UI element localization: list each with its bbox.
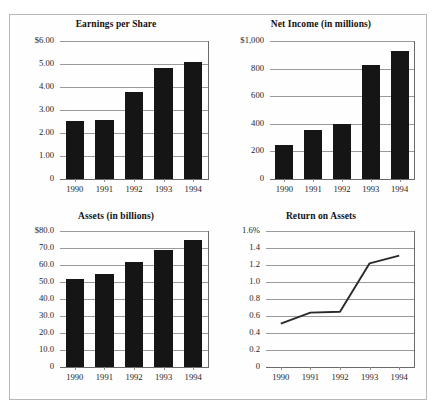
chart-title-net-income: Net Income (in millions) — [218, 19, 424, 29]
y-axis-tick-label: $6.00 — [16, 35, 54, 45]
bar-1992 — [125, 92, 143, 179]
x-axis-tick-label: 1991 — [299, 184, 328, 194]
x-axis-tick-mark — [164, 367, 165, 370]
chart-panel-net-income: Net Income (in millions)0200400600800$1,… — [218, 19, 424, 211]
x-axis-tick-mark — [399, 367, 400, 370]
y-axis-tick-label: 0 — [220, 173, 264, 183]
x-axis-tick-label: 1990 — [266, 372, 296, 382]
x-axis-tick-label: 1992 — [119, 372, 149, 382]
right-spine — [414, 231, 415, 368]
x-axis-tick-label: 1991 — [296, 372, 326, 382]
y-axis-tick-label: 600 — [220, 90, 264, 100]
y-axis-tick-label: 1.2 — [220, 259, 260, 269]
x-axis-tick-mark — [340, 367, 341, 370]
x-axis-tick-mark — [134, 179, 135, 182]
y-axis-tick-label: 0 — [220, 361, 260, 371]
y-axis-tick-label: 2.00 — [16, 127, 54, 137]
chart-title-earnings-per-share: Earnings per Share — [14, 19, 218, 29]
x-axis-tick-mark — [370, 367, 371, 370]
x-axis-tick-label: 1990 — [270, 184, 299, 194]
x-axis-tick-mark — [104, 367, 105, 370]
x-axis-tick-mark — [104, 179, 105, 182]
bar-1991 — [304, 130, 322, 179]
x-axis-tick-label: 1994 — [178, 372, 208, 382]
bar-1990 — [66, 121, 84, 179]
chart-panel-earnings-per-share: Earnings per Share01.002.003.004.005.00$… — [14, 19, 218, 211]
bar-1991 — [95, 120, 113, 179]
y-axis-tick-label: $1,000 — [220, 35, 264, 45]
x-axis-tick-mark — [400, 179, 401, 182]
x-axis-tick-mark — [284, 179, 285, 182]
bar-1994 — [184, 240, 202, 367]
right-spine — [208, 41, 209, 180]
x-axis-tick-mark — [193, 367, 194, 370]
bar-1990 — [66, 279, 84, 367]
x-axis-tick-mark — [310, 367, 311, 370]
x-axis-tick-label: 1994 — [178, 184, 208, 194]
y-axis-tick-label: 40.0 — [16, 293, 54, 303]
y-axis-tick-label: 0.4 — [220, 327, 260, 337]
bar-1993 — [154, 250, 172, 367]
x-axis-tick-mark — [164, 179, 165, 182]
bar-1994 — [184, 62, 202, 179]
y-axis-tick-label: 60.0 — [16, 259, 54, 269]
line-path — [281, 256, 399, 324]
y-axis-tick-label: 3.00 — [16, 104, 54, 114]
figure-frame: Earnings per Share01.002.003.004.005.00$… — [9, 14, 427, 400]
bar-1992 — [125, 262, 143, 367]
x-axis-tick-label: 1994 — [384, 372, 414, 382]
bar-1994 — [391, 51, 409, 179]
x-axis-tick-label: 1993 — [149, 184, 179, 194]
y-axis-tick-label: 0 — [16, 173, 54, 183]
x-axis-tick-label: 1993 — [355, 372, 385, 382]
y-axis-tick-label: 200 — [220, 145, 264, 155]
chart-panel-return-on-assets: Return on Assets00.20.40.60.81.01.21.41.… — [218, 211, 424, 397]
x-axis-tick-label: 1993 — [356, 184, 385, 194]
y-axis-tick-label: 1.6% — [220, 225, 260, 235]
y-axis-tick-label: 400 — [220, 118, 264, 128]
bar-1990 — [275, 145, 293, 180]
y-axis-tick-label: 70.0 — [16, 242, 54, 252]
gridline — [60, 41, 208, 42]
x-axis-tick-label: 1991 — [90, 372, 120, 382]
y-axis-tick-label: 30.0 — [16, 310, 54, 320]
y-axis-tick-label: 0.6 — [220, 310, 260, 320]
bar-1991 — [95, 274, 113, 367]
bar-1993 — [154, 68, 172, 179]
y-axis-tick-label: 1.00 — [16, 150, 54, 160]
y-axis-tick-label: 0 — [16, 361, 54, 371]
y-axis-tick-label: 5.00 — [16, 58, 54, 68]
x-axis-tick-mark — [342, 179, 343, 182]
y-axis-tick-label: 10.0 — [16, 344, 54, 354]
y-axis-tick-label: 20.0 — [16, 327, 54, 337]
y-axis-tick-label: 1.4 — [220, 242, 260, 252]
plot-area-earnings-per-share: 01.002.003.004.005.00$6.0019901991199219… — [60, 41, 208, 179]
x-axis-tick-label: 1991 — [90, 184, 120, 194]
gridline — [60, 231, 208, 232]
y-axis-tick-label: 1.0 — [220, 276, 260, 286]
x-axis-tick-mark — [134, 367, 135, 370]
x-axis-tick-label: 1990 — [60, 184, 90, 194]
x-axis-tick-mark — [313, 179, 314, 182]
bar-1992 — [333, 124, 351, 179]
x-axis-tick-label: 1994 — [385, 184, 414, 194]
x-axis-tick-label: 1992 — [119, 184, 149, 194]
x-axis-tick-label: 1992 — [328, 184, 357, 194]
x-axis-tick-mark — [75, 367, 76, 370]
y-axis-tick-label: 800 — [220, 63, 264, 73]
gridline — [270, 41, 414, 42]
bar-1993 — [362, 65, 380, 179]
x-axis-tick-label: 1992 — [325, 372, 355, 382]
right-spine — [414, 41, 415, 180]
plot-area-net-income: 0200400600800$1,00019901991199219931994 — [270, 41, 414, 179]
y-axis-tick-label: $80.0 — [16, 225, 54, 235]
x-axis-tick-mark — [75, 179, 76, 182]
right-spine — [208, 231, 209, 368]
plot-area-return-on-assets: 00.20.40.60.81.01.21.41.6%19901991199219… — [266, 231, 414, 367]
chart-title-return-on-assets: Return on Assets — [218, 211, 424, 221]
x-axis-tick-label: 1993 — [149, 372, 179, 382]
y-axis-tick-label: 0.2 — [220, 344, 260, 354]
x-axis-tick-mark — [193, 179, 194, 182]
x-axis-tick-mark — [281, 367, 282, 370]
x-axis-tick-label: 1990 — [60, 372, 90, 382]
